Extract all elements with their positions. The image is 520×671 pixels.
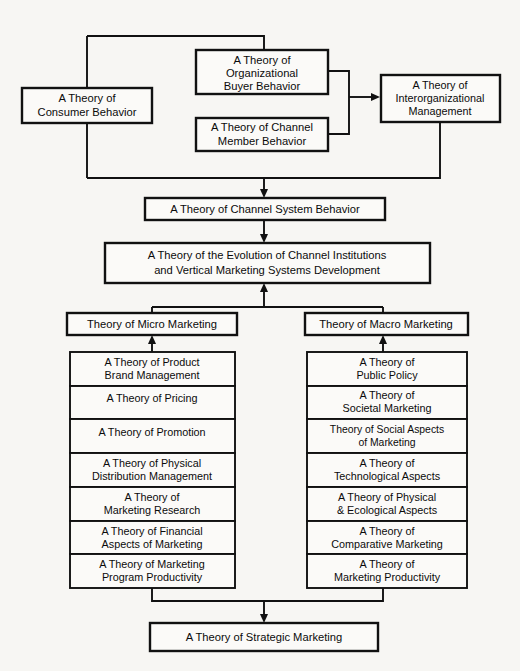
arrowhead-micro-column-up (148, 335, 156, 344)
micro-column-item-4[interactable]: A Theory of Marketing Research (70, 487, 235, 521)
macro-column-item-2-line2: of Marketing (358, 437, 415, 448)
micro-column-item-0[interactable]: A Theory of Product Brand Management (70, 352, 235, 386)
macro-column-item-4[interactable]: A Theory of Physical & Ecological Aspect… (307, 487, 467, 521)
macro-column-item-3-line1: A Theory of (359, 457, 415, 469)
macro-column-item-3[interactable]: A Theory of Technological Aspects (307, 453, 467, 487)
micro-column-item-2[interactable]: A Theory of Promotion (70, 419, 235, 453)
micro-column-item-3[interactable]: A Theory of Physical Distribution Manage… (70, 453, 235, 487)
micro-column-item-5[interactable]: A Theory of Financial Aspects of Marketi… (70, 521, 235, 554)
macro-column-item-5-line1: A Theory of (359, 525, 415, 537)
macro-column-item-6-line2: Marketing Productivity (334, 571, 441, 583)
micro-column-item-4-line1: A Theory of (124, 491, 180, 503)
node-organizational-buyer-behavior[interactable]: A Theory of Organizational Buyer Behavio… (196, 50, 328, 94)
micro-column-item-1-line1: A Theory of Pricing (106, 392, 197, 404)
micro-column-item-3-line1: A Theory of Physical (103, 457, 201, 469)
connector-columns-to-strategic-bus (152, 588, 383, 601)
node-evolution-channel-institutions-line1: A Theory of the Evolution of Channel Ins… (148, 249, 387, 261)
node-channel-member-behavior-line1: A Theory of Channel (211, 121, 313, 133)
macro-column-item-4-line1: A Theory of Physical (338, 491, 436, 503)
bottom-level-group: A Theory of Strategic Marketing (150, 623, 378, 651)
node-micro-marketing[interactable]: Theory of Micro Marketing (67, 313, 237, 335)
node-channel-member-behavior[interactable]: A Theory of Channel Member Behavior (196, 118, 328, 151)
connector-cmb-to-bus (328, 97, 349, 134)
mid-level-group: A Theory of Channel System Behavior A Th… (67, 198, 468, 335)
macro-column-item-1[interactable]: A Theory of Societal Marketing (307, 386, 467, 419)
node-evolution-channel-institutions-line2: and Vertical Marketing Systems Developme… (154, 264, 381, 276)
arrowhead-to-channel-system (260, 189, 268, 198)
micro-column-item-5-line1: A Theory of Financial (101, 525, 202, 537)
arrowhead-macro-column-up (379, 335, 387, 344)
node-evolution-channel-institutions[interactable]: A Theory of the Evolution of Channel Ins… (105, 243, 430, 283)
macro-column-item-2-line1: Theory of Social Aspects (330, 424, 444, 435)
micro-column-item-2-line1: A Theory of Promotion (98, 426, 205, 438)
micro-column-item-5-line2: Aspects of Marketing (102, 538, 203, 550)
node-interorganizational-management-line3: Management (408, 105, 471, 117)
theory-hierarchy-diagram: A Theory of Consumer Behavior A Theory o… (0, 0, 520, 671)
macro-column-item-6-line1: A Theory of (359, 558, 415, 570)
macro-column-item-6[interactable]: A Theory of Marketing Productivity (307, 554, 467, 588)
node-consumer-behavior-line1: A Theory of (58, 92, 116, 104)
macro-column-item-3-line2: Technological Aspects (334, 470, 441, 482)
node-organizational-buyer-behavior-line1: A Theory of (233, 54, 291, 66)
macro-column-item-1-line1: A Theory of (359, 389, 415, 401)
micro-column-item-4-line2: Marketing Research (104, 504, 201, 516)
macro-column-item-0-line2: Public Policy (356, 369, 418, 381)
node-channel-system-behavior[interactable]: A Theory of Channel System Behavior (145, 198, 385, 220)
arrowhead-to-interorg (371, 93, 380, 101)
connector-obb-to-bus (328, 71, 349, 97)
macro-column-item-2[interactable]: Theory of Social Aspects of Marketing (307, 419, 467, 453)
node-macro-marketing-label: Theory of Macro Marketing (319, 318, 453, 330)
micro-column-item-0-line1: A Theory of Product (104, 356, 199, 368)
node-organizational-buyer-behavior-line3: Buyer Behavior (224, 80, 301, 92)
micro-column-item-3-line2: Distribution Management (92, 470, 212, 482)
node-organizational-buyer-behavior-line2: Organizational (226, 67, 298, 79)
node-strategic-marketing[interactable]: A Theory of Strategic Marketing (150, 623, 378, 651)
connector-consumer-top-bus (87, 36, 264, 50)
node-interorganizational-management[interactable]: A Theory of Interorganizational Manageme… (381, 75, 500, 122)
node-macro-marketing[interactable]: Theory of Macro Marketing (305, 313, 468, 335)
micro-column-item-6-line2: Program Productivity (102, 571, 203, 583)
macro-column-item-0-line1: A Theory of (359, 356, 415, 368)
macro-column-item-0[interactable]: A Theory of Public Policy (307, 352, 467, 386)
macro-column-item-5-line2: Comparative Marketing (331, 538, 443, 550)
diagram-canvas: A Theory of Consumer Behavior A Theory o… (0, 0, 520, 671)
node-consumer-behavior[interactable]: A Theory of Consumer Behavior (22, 88, 152, 123)
macro-column-item-1-line2: Societal Marketing (343, 402, 432, 414)
node-channel-system-behavior-line1: A Theory of Channel System Behavior (170, 203, 360, 215)
micro-column-item-1[interactable]: A Theory of Pricing (70, 386, 235, 419)
node-interorganizational-management-line2: Interorganizational (396, 92, 485, 104)
macro-marketing-column: A Theory of Public Policy A Theory of So… (307, 352, 467, 588)
macro-column-item-5[interactable]: A Theory of Comparative Marketing (307, 521, 467, 554)
arrowhead-to-strategic-marketing (260, 614, 268, 623)
micro-column-item-6[interactable]: A Theory of Marketing Program Productivi… (70, 554, 235, 588)
node-channel-member-behavior-line2: Member Behavior (218, 135, 307, 147)
macro-column-item-4-line2: & Ecological Aspects (337, 504, 438, 516)
top-level-group: A Theory of Consumer Behavior A Theory o… (22, 50, 500, 151)
micro-marketing-column: A Theory of Product Brand Management A T… (70, 352, 235, 588)
node-interorganizational-management-line1: A Theory of (412, 79, 468, 91)
micro-column-item-0-line2: Brand Management (105, 369, 200, 381)
micro-column-item-6-line1: A Theory of Marketing (99, 558, 204, 570)
arrowhead-junction-up-to-evolution (260, 283, 268, 292)
node-strategic-marketing-label: A Theory of Strategic Marketing (186, 631, 343, 643)
arrowhead-to-evolution (260, 234, 268, 243)
node-consumer-behavior-line2: Consumer Behavior (38, 106, 137, 118)
node-micro-marketing-label: Theory of Micro Marketing (87, 318, 217, 330)
